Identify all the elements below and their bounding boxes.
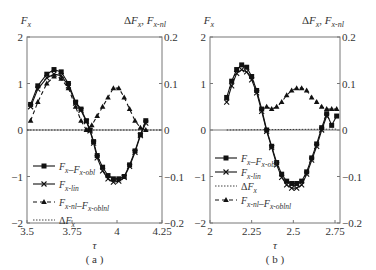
y-right-tick-label: 0.2 (342, 31, 356, 43)
legend-entry: Fx-nl–Fx-oblnl (58, 197, 109, 213)
x-tick-label: 2.5 (286, 225, 300, 237)
panel-caption: ( a ) (86, 253, 104, 266)
y-right-tick-label: 0 (164, 124, 170, 136)
y-left-tick-label: −1 (194, 171, 206, 183)
legend: Fx–Fx-oblFx-linΔFxFx-nl–Fx-oblnl (215, 153, 291, 211)
x-tick-label: 3.5 (20, 225, 34, 237)
y-right-tick-label: 0.2 (164, 31, 178, 43)
legend-entry: ΔFx (241, 181, 258, 195)
x-tick-label: 4.25 (152, 225, 172, 237)
x-tick-label: 2 (207, 225, 213, 237)
y-right-axis-label: ΔFx, Fx-nl (302, 14, 345, 29)
y-right-tick-label: 0 (342, 124, 348, 136)
y-right-tick-label: −0.1 (342, 171, 362, 183)
legend-entry: Fx–Fx-obl (58, 161, 95, 177)
legend-entry: Fx-lin (58, 179, 79, 193)
y-right-tick-label: 0.1 (164, 78, 178, 90)
x-axis-label: τ (273, 239, 278, 251)
y-left-tick-label: 1 (201, 78, 207, 90)
figure: 210−1−20.20.10−0.1−0.23.53.7544.25τFxΔFx… (0, 0, 376, 270)
y-right-tick-label: 0.1 (342, 78, 356, 90)
chart-panel-a: 210−1−20.20.10−0.1−0.23.53.7544.25τFxΔFx… (11, 14, 184, 266)
chart-panel-b: 210−1−20.20.10−0.1−0.222.252.52.75τFxΔFx… (194, 14, 362, 266)
y-left-axis-label: Fx (203, 14, 215, 29)
y-right-tick-label: −0.1 (164, 171, 184, 183)
legend-entry: Fx-nl–Fx-oblnl (240, 195, 291, 211)
y-left-tick-label: 2 (18, 31, 24, 43)
y-left-tick-label: 1 (18, 78, 24, 90)
y-left-tick-label: −1 (11, 171, 23, 183)
y-right-axis-label: ΔFx, Fx-nl (124, 14, 167, 29)
panel-caption: ( b ) (266, 253, 285, 266)
legend-entry: Fx-lin (240, 167, 261, 181)
legend: Fx–Fx-oblFx-linFx-nl–Fx-oblnlΔFx (33, 161, 109, 229)
y-right-tick-label: −0.2 (342, 217, 362, 229)
y-left-tick-label: 0 (18, 124, 24, 136)
x-axis-label: τ (93, 239, 98, 251)
y-left-tick-label: 2 (201, 31, 207, 43)
y-left-axis-label: Fx (20, 14, 32, 29)
series-triangle (264, 85, 340, 111)
series-x (224, 67, 329, 191)
y-left-tick-label: 0 (201, 124, 207, 136)
x-tick-label: 2.75 (325, 225, 345, 237)
x-tick-label: 4 (114, 225, 120, 237)
y-left-tick-label: −2 (194, 217, 206, 229)
x-tick-label: 2.25 (242, 225, 262, 237)
